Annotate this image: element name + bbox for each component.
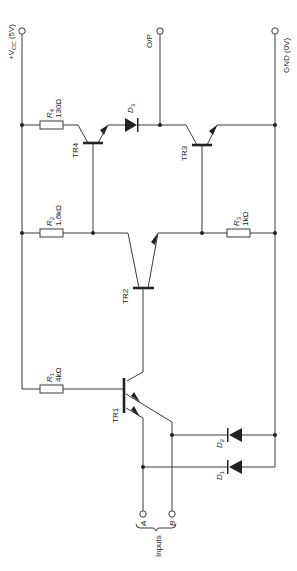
d3-label: D3 <box>126 103 136 113</box>
r3-value: 1kΩ <box>241 212 250 226</box>
tr1-arrow-b-icon <box>131 392 140 402</box>
r1-value: 4kΩ <box>54 368 63 382</box>
input-a-label: A <box>139 521 148 527</box>
input-a-terminal <box>140 511 146 517</box>
input-b-terminal <box>169 511 175 517</box>
resistor-r2 <box>40 229 63 237</box>
ground-terminal <box>272 28 278 34</box>
resistor-r3 <box>227 229 250 237</box>
inputs-label: Inputs <box>154 535 163 557</box>
tr3-label: TR3 <box>180 145 189 161</box>
diode-d2-icon <box>229 428 242 442</box>
d2-label: D2 <box>215 438 225 448</box>
tr4-arrow-icon <box>100 125 108 135</box>
r2-value: 1.6kΩ <box>54 205 63 226</box>
tr2-collector <box>128 233 139 288</box>
tr3-arrow-icon <box>209 125 217 135</box>
input-b-label: B <box>168 520 177 526</box>
vcc-label: +VCC (5V) <box>7 24 17 60</box>
resistor-r1 <box>40 385 63 393</box>
resistor-r4 <box>40 121 63 129</box>
diode-d3-icon <box>125 118 137 132</box>
tr3-collector <box>186 125 197 145</box>
ground-label: GND (0V) <box>282 38 291 73</box>
tr2-label: TR2 <box>121 288 130 304</box>
tr1-label: TR1 <box>111 407 120 423</box>
diode-d1-icon <box>229 460 242 474</box>
vcc-terminal <box>19 28 25 34</box>
output-terminal <box>157 28 163 34</box>
tr4-label: TR4 <box>71 142 80 158</box>
d1-label: D1 <box>215 470 225 480</box>
r4-value: 130Ω <box>54 99 63 118</box>
tr4-collector <box>78 125 88 143</box>
circuit-diagram: +VCC (5V) O/P GND (0V) R4 130Ω R2 1.6kΩ … <box>0 0 297 571</box>
output-label: O/P <box>145 34 154 48</box>
